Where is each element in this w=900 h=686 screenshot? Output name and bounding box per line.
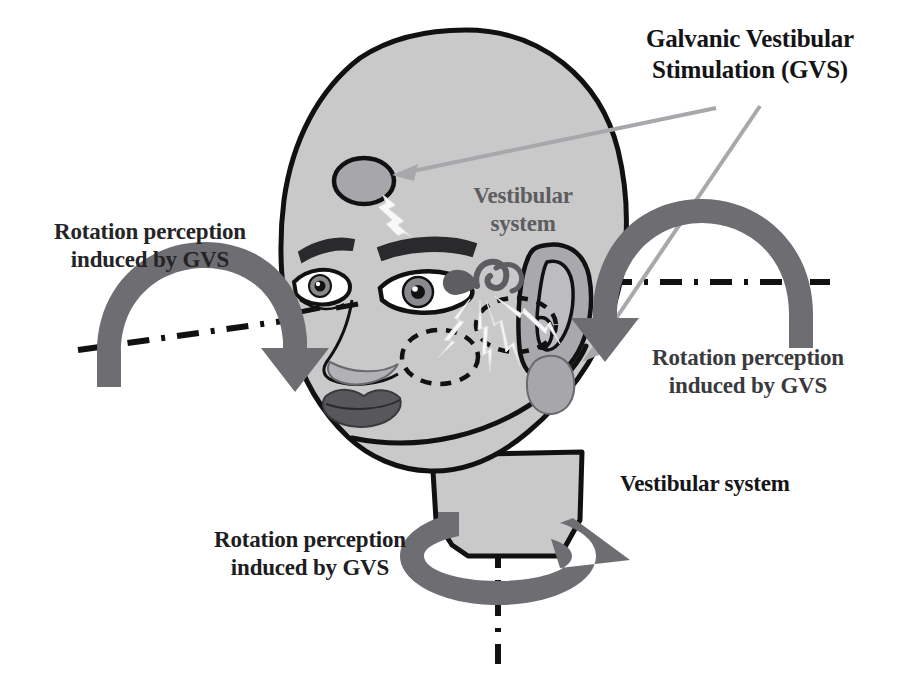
electrode-blob-icon	[527, 356, 574, 414]
rotation-perception-left-label: Rotation perception induced by GVS	[12, 218, 288, 274]
figure-canvas	[0, 0, 900, 686]
rotation-perception-bottom-label: Rotation perception induced by GVS	[170, 526, 450, 582]
rotation-perception-right-label: Rotation perception induced by GVS	[608, 344, 888, 400]
gvs-title-label: Galvanic Vestibular Stimulation (GVS)	[612, 24, 888, 85]
vestibular-system-head-label: Vestibular system	[438, 182, 608, 238]
vestibular-system-callout-label: Vestibular system	[620, 470, 880, 498]
gvs-figure: Galvanic Vestibular Stimulation (GVS) Ro…	[0, 0, 900, 686]
